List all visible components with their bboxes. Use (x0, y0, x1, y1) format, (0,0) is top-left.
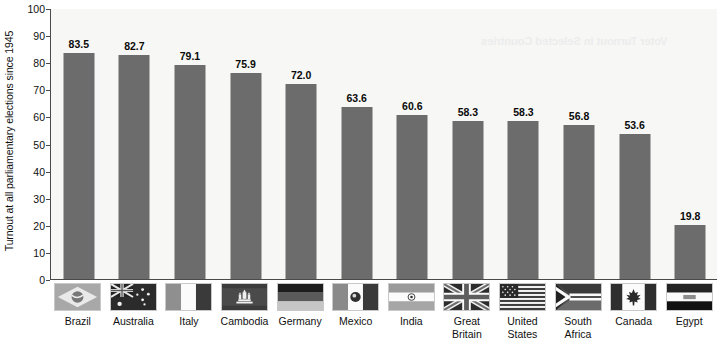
bar-slot: 56.8 (551, 9, 607, 279)
bar (397, 115, 428, 279)
category-label: Egypt (661, 315, 717, 328)
category-item: South Africa (550, 283, 606, 340)
bar (341, 107, 372, 279)
category-label: Italy (161, 315, 217, 328)
bar-value-label: 72.0 (291, 69, 311, 81)
flag-india-icon (388, 283, 435, 311)
y-axis-tick-label: 40 (33, 166, 45, 178)
bar-slot: 83.5 (51, 9, 107, 279)
flag-canada-icon (610, 283, 657, 311)
y-axis-tick-label: 20 (33, 220, 45, 232)
bar (619, 134, 650, 279)
flag-egypt-icon (666, 283, 713, 311)
bar-slot: 58.3 (440, 9, 496, 279)
flag-south-africa-icon (555, 283, 602, 311)
bar-value-label: 56.8 (569, 110, 589, 122)
bar (452, 121, 483, 279)
bar (675, 225, 706, 279)
category-label: Mexico (328, 315, 384, 328)
bar-value-label: 53.6 (624, 119, 644, 131)
y-axis-tick-label: 70 (33, 84, 45, 96)
category-label: Cambodia (217, 315, 273, 328)
y-axis-tick-label: 0 (39, 274, 45, 286)
category-item: Australia (106, 283, 162, 328)
flag-great-britain-icon (443, 283, 490, 311)
bar-value-label: 82.7 (124, 40, 144, 52)
bar (564, 125, 595, 279)
category-label: South Africa (550, 315, 606, 340)
bar-slot: 63.6 (329, 9, 385, 279)
category-label: India (384, 315, 440, 328)
bar-slot: 82.7 (107, 9, 163, 279)
category-item: Italy (161, 283, 217, 328)
category-label: Australia (106, 315, 162, 328)
category-item: Canada (606, 283, 662, 328)
bar (174, 65, 205, 279)
bar-slot: 58.3 (496, 9, 552, 279)
chart-page: Turnout at all parliamentary elections s… (0, 0, 728, 349)
bar-value-label: 75.9 (235, 58, 255, 70)
bar-value-label: 79.1 (180, 50, 200, 62)
bar-slot: 75.9 (218, 9, 274, 279)
category-item: Egypt (661, 283, 717, 328)
bar (286, 84, 317, 279)
y-axis-tick-label: 80 (33, 57, 45, 69)
bar-slot: 53.6 (607, 9, 663, 279)
category-label: Great Britain (439, 315, 495, 340)
bar-value-label: 63.6 (346, 92, 366, 104)
category-item: Brazil (50, 283, 106, 328)
bar (508, 121, 539, 279)
y-axis-tick-label: 90 (33, 30, 45, 42)
category-item: Great Britain (439, 283, 495, 340)
category-item: Cambodia (217, 283, 273, 328)
bar (63, 53, 94, 279)
category-label: United States (495, 315, 551, 340)
category-label: Brazil (50, 315, 106, 328)
flag-italy-icon (165, 283, 212, 311)
bar-slot: 72.0 (273, 9, 329, 279)
y-axis: 0102030405060708090100 (18, 0, 50, 289)
y-axis-tick-label: 10 (33, 247, 45, 259)
bar-slot: 60.6 (385, 9, 441, 279)
y-axis-tick-mark (46, 280, 50, 281)
bar-slot: 79.1 (162, 9, 218, 279)
bar (119, 55, 150, 279)
category-item: India (384, 283, 440, 328)
flag-brazil-icon (54, 283, 101, 311)
plot-area: Voter Turnout in Selected Countries 83.5… (50, 9, 717, 280)
flag-australia-icon (110, 283, 157, 311)
category-item: United States (495, 283, 551, 340)
category-item: Mexico (328, 283, 384, 328)
bar (230, 73, 261, 279)
bar-value-label: 60.6 (402, 100, 422, 112)
category-item: Germany (272, 283, 328, 328)
bar-value-label: 58.3 (513, 106, 533, 118)
bar-slot: 19.8 (662, 9, 718, 279)
y-axis-tick-label: 50 (33, 139, 45, 151)
bar-value-label: 19.8 (680, 210, 700, 222)
bar-series: 83.582.779.175.972.063.660.658.358.356.8… (51, 9, 717, 279)
bar-value-label: 83.5 (69, 38, 89, 50)
y-axis-tick-label: 100 (27, 3, 45, 15)
bar-value-label: 58.3 (458, 106, 478, 118)
flag-cambodia-icon (221, 283, 268, 311)
category-axis: BrazilAustraliaItalyCambodiaGermanyMexic… (50, 283, 717, 349)
y-axis-tick-label: 30 (33, 193, 45, 205)
category-label: Germany (272, 315, 328, 328)
flag-united-states-icon (499, 283, 546, 311)
y-axis-title-text: Turnout at all parliamentary elections s… (3, 31, 15, 252)
y-axis-title: Turnout at all parliamentary elections s… (0, 0, 18, 282)
flag-mexico-icon (332, 283, 379, 311)
flag-germany-icon (277, 283, 324, 311)
y-axis-tick-label: 60 (33, 111, 45, 123)
category-label: Canada (606, 315, 662, 328)
